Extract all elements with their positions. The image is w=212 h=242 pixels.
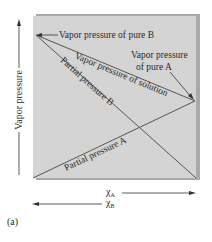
label-pure-a-line1: Vapor pressure <box>131 50 188 60</box>
panel-label: (a) <box>7 216 18 228</box>
vapor-pressure-diagram: Vapor pressure of pure B Vapor pressure … <box>0 0 212 242</box>
x-axis-b-arrowhead-icon <box>32 202 39 206</box>
label-pure-a-line2: of pure A <box>136 62 172 72</box>
plot-panel <box>33 16 196 178</box>
x-axis-label-b: χB <box>105 197 114 209</box>
y-axis-label: Vapor pressure <box>13 70 24 130</box>
y-axis-arrowhead-icon <box>17 19 21 26</box>
label-pure-b: Vapor pressure of pure B <box>59 30 154 40</box>
x-axis-a-arrowhead-icon <box>189 191 196 195</box>
